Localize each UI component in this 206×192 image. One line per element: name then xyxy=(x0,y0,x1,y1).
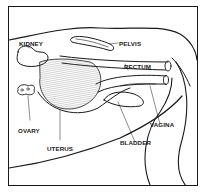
label-kidney: KIDNEY xyxy=(19,41,43,47)
label-vagina: VAGINA xyxy=(150,122,174,128)
uterus-broad-ligament xyxy=(40,59,101,109)
pelvis-bone xyxy=(71,36,114,50)
ovary-shape xyxy=(18,85,35,95)
label-rectum: RECTUM xyxy=(124,64,151,70)
vagina-tube xyxy=(96,75,166,84)
label-ovary: OVARY xyxy=(18,128,40,134)
leg-contour xyxy=(145,78,172,185)
tail-contour xyxy=(176,62,187,186)
label-pelvis: PELVIS xyxy=(119,41,141,47)
label-bladder: BLADDER xyxy=(120,140,151,146)
anatomy-illustration xyxy=(0,0,206,192)
label-uterus: UTERUS xyxy=(47,146,73,152)
